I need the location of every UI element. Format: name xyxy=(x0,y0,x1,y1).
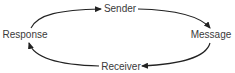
arrow-sender-to-message xyxy=(138,9,210,28)
node-receiver: Receiver xyxy=(101,61,140,73)
node-sender: Sender xyxy=(104,3,136,15)
node-response: Response xyxy=(2,29,47,41)
communication-cycle-diagram: Sender Message Receiver Response xyxy=(0,0,235,73)
arrow-message-to-receiver xyxy=(142,43,210,66)
node-message: Message xyxy=(191,29,232,41)
arrow-response-to-sender xyxy=(31,9,101,28)
arrow-receiver-to-response xyxy=(29,43,99,66)
